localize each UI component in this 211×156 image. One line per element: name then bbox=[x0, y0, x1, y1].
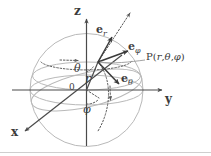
e-phi-label: eφ bbox=[128, 41, 141, 55]
e-theta-label: eθ bbox=[121, 73, 133, 87]
spherical-coordinates-diagram: z y x 0 er eφ eθ θ φ r P(r,θ,φ) bbox=[0, 0, 211, 156]
radius-label: r bbox=[85, 73, 91, 85]
e-phi-subscript: φ bbox=[135, 46, 141, 55]
point-label: P(r,θ,φ) bbox=[146, 52, 185, 62]
e-theta-base: e bbox=[121, 72, 128, 85]
y-axis-label: y bbox=[165, 93, 172, 105]
latitude-arrow-segment bbox=[60, 60, 78, 61]
point-label-close: ) bbox=[181, 51, 185, 62]
origin-label: 0 bbox=[69, 83, 75, 92]
z-axis-label: z bbox=[74, 5, 81, 17]
phi-projection-line bbox=[87, 90, 100, 98]
e-r-subscript: r bbox=[103, 29, 107, 38]
point-leader-line bbox=[100, 60, 145, 63]
point-label-prefix: P bbox=[146, 51, 153, 62]
phi-angle-label: φ bbox=[83, 104, 91, 115]
e-r-base: e bbox=[96, 23, 103, 36]
e-phi-base: e bbox=[128, 40, 135, 53]
point-label-phi: φ bbox=[174, 51, 181, 62]
e-r-label: er bbox=[96, 24, 107, 38]
e-theta-subscript: θ bbox=[128, 78, 133, 87]
theta-angle-label: θ bbox=[74, 63, 81, 74]
x-axis-label: x bbox=[11, 126, 18, 138]
